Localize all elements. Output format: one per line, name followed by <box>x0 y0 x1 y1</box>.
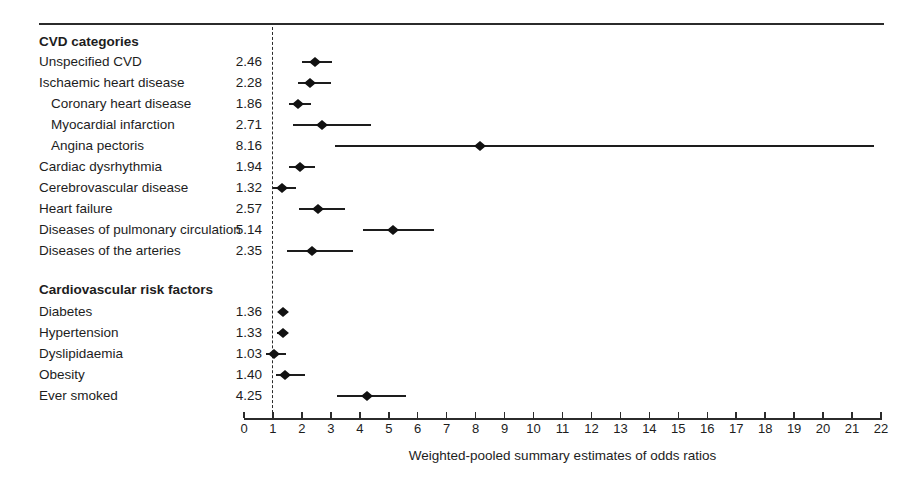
point-estimate-diamond <box>474 141 486 151</box>
section-header: Cardiovascular risk factors <box>39 282 213 298</box>
row-label: Ever smoked <box>39 388 118 404</box>
x-axis-tick <box>678 412 680 418</box>
x-axis-tick-label: 0 <box>232 422 256 436</box>
x-axis-tick <box>620 412 622 418</box>
x-axis-tick <box>764 412 766 418</box>
row-label: Heart failure <box>39 201 113 217</box>
x-axis-tick <box>504 412 506 418</box>
x-axis-tick-label: 13 <box>608 422 632 436</box>
x-axis-tick <box>822 412 824 418</box>
row-label: Diseases of the arteries <box>39 243 181 259</box>
x-axis-tick-label: 8 <box>464 422 488 436</box>
x-axis-tick <box>793 412 795 418</box>
x-axis-tick-label: 12 <box>579 422 603 436</box>
confidence-interval-line <box>335 145 874 147</box>
row-label: Myocardial infarction <box>51 117 175 133</box>
x-axis-line <box>244 418 882 420</box>
row-odds-ratio-value: 1.32 <box>205 180 262 196</box>
row-odds-ratio-value: 8.16 <box>205 138 262 154</box>
row-odds-ratio-value: 1.03 <box>205 346 262 362</box>
x-axis-tick <box>475 412 477 418</box>
row-odds-ratio-value: 2.46 <box>205 54 262 70</box>
x-axis-tick <box>301 412 303 418</box>
x-axis-tick-label: 9 <box>493 422 517 436</box>
x-axis-tick-label: 7 <box>435 422 459 436</box>
point-estimate-diamond <box>277 328 289 338</box>
row-label: Diabetes <box>39 304 92 320</box>
point-estimate-diamond <box>304 78 316 88</box>
point-estimate-diamond <box>312 204 324 214</box>
x-axis-tick <box>649 412 651 418</box>
point-estimate-diamond <box>309 57 321 67</box>
x-axis-tick <box>562 412 564 418</box>
point-estimate-diamond <box>387 225 399 235</box>
row-label: Cerebrovascular disease <box>39 180 188 196</box>
top-rule-line <box>39 23 884 25</box>
point-estimate-diamond <box>277 307 289 317</box>
row-label: Obesity <box>39 367 85 383</box>
section-header: CVD categories <box>39 34 139 50</box>
x-axis-tick-label: 17 <box>724 422 748 436</box>
row-odds-ratio-value: 2.71 <box>205 117 262 133</box>
x-axis-tick-label: 3 <box>319 422 343 436</box>
row-odds-ratio-value: 2.35 <box>205 243 262 259</box>
row-odds-ratio-value: 1.36 <box>205 304 262 320</box>
row-label: Unspecified CVD <box>39 54 142 70</box>
point-estimate-diamond <box>294 162 306 172</box>
row-odds-ratio-value: 1.94 <box>205 159 262 175</box>
x-axis-tick-label: 15 <box>666 422 690 436</box>
point-estimate-diamond <box>276 183 288 193</box>
x-axis-tick <box>388 412 390 418</box>
x-axis-tick-label: 20 <box>811 422 835 436</box>
x-axis-tick-label: 16 <box>695 422 719 436</box>
row-odds-ratio-value: 1.86 <box>205 96 262 112</box>
row-label: Coronary heart disease <box>51 96 191 112</box>
point-estimate-diamond <box>292 99 304 109</box>
x-axis-tick <box>359 412 361 418</box>
x-axis-tick <box>446 412 448 418</box>
x-axis-tick <box>880 412 882 418</box>
x-axis-tick-label: 10 <box>522 422 546 436</box>
x-axis-tick <box>533 412 535 418</box>
point-estimate-diamond <box>279 370 291 380</box>
x-axis-tick <box>707 412 709 418</box>
forest-plot-figure: CVD categoriesUnspecified CVD2.46Ischaem… <box>0 0 918 482</box>
x-axis-tick <box>417 412 419 418</box>
row-odds-ratio-value: 2.57 <box>205 201 262 217</box>
row-label: Cardiac dysrhythmia <box>39 159 162 175</box>
x-axis-tick <box>735 412 737 418</box>
row-odds-ratio-value: 1.40 <box>205 367 262 383</box>
row-odds-ratio-value: 2.28 <box>205 75 262 91</box>
x-axis-tick-label: 22 <box>869 422 893 436</box>
x-axis-tick <box>272 412 274 418</box>
x-axis-tick-label: 19 <box>782 422 806 436</box>
x-axis-tick <box>330 412 332 418</box>
x-axis-tick <box>243 412 245 418</box>
x-axis-tick-label: 6 <box>406 422 430 436</box>
x-axis-tick <box>591 412 593 418</box>
row-odds-ratio-value: 1.33 <box>205 325 262 341</box>
reference-line-or-1 <box>272 27 273 418</box>
point-estimate-diamond <box>306 246 318 256</box>
x-axis-tick-label: 5 <box>377 422 401 436</box>
x-axis-tick-label: 2 <box>290 422 314 436</box>
confidence-interval-line <box>293 124 371 126</box>
x-axis-title: Weighted-pooled summary estimates of odd… <box>244 448 881 464</box>
row-label: Angina pectoris <box>51 138 144 154</box>
x-axis-tick-label: 18 <box>753 422 777 436</box>
x-axis-tick-label: 1 <box>261 422 285 436</box>
point-estimate-diamond <box>268 349 280 359</box>
x-axis-tick-label: 21 <box>840 422 864 436</box>
confidence-interval-line <box>287 250 352 252</box>
point-estimate-diamond <box>317 120 329 130</box>
row-label: Hypertension <box>39 325 119 341</box>
x-axis-tick-label: 4 <box>348 422 372 436</box>
row-label: Dyslipidaemia <box>39 346 123 362</box>
row-odds-ratio-value: 4.25 <box>205 388 262 404</box>
row-odds-ratio-value: 5.14 <box>205 222 262 238</box>
x-axis-tick-label: 11 <box>551 422 575 436</box>
x-axis-tick <box>851 412 853 418</box>
x-axis-tick-label: 14 <box>637 422 661 436</box>
row-label: Ischaemic heart disease <box>39 75 185 91</box>
point-estimate-diamond <box>361 391 373 401</box>
